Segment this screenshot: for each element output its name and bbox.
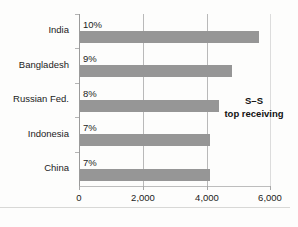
chart-annotation: S–S top receiving	[214, 95, 294, 120]
bar-indonesia[interactable]	[80, 134, 210, 146]
bar-china[interactable]	[80, 169, 210, 181]
category-tick-4	[75, 152, 79, 153]
bar-bangladesh[interactable]	[80, 65, 232, 77]
annotation-line-1: S–S	[214, 95, 294, 108]
annotation-line-2: top receiving	[214, 108, 294, 121]
data-label-indonesia: 7%	[83, 122, 97, 133]
category-label-china: China	[44, 162, 69, 173]
xtick-mark-4000	[207, 186, 208, 190]
data-label-bangladesh: 9%	[83, 53, 97, 64]
page-edge-artifact	[0, 207, 290, 208]
category-label-indonesia: Indonesia	[28, 128, 69, 139]
bar-russian-fed[interactable]	[80, 100, 219, 112]
xtick-mark-0	[79, 186, 80, 190]
category-tick-3	[75, 117, 79, 118]
category-tick-2	[75, 83, 79, 84]
category-tick-0	[75, 14, 79, 15]
bar-chart: India Bangladesh Russian Fed. Indonesia …	[0, 0, 298, 227]
xtick-label-2000: 2,000	[131, 192, 155, 203]
data-label-china: 7%	[83, 157, 97, 168]
xtick-label-0: 0	[76, 192, 81, 203]
x-axis-baseline	[79, 186, 271, 187]
data-label-india: 10%	[83, 19, 102, 30]
xtick-label-6000: 6,000	[258, 192, 282, 203]
category-label-bangladesh: Bangladesh	[19, 59, 69, 70]
xtick-label-4000: 4,000	[195, 192, 219, 203]
category-label-russian-fed: Russian Fed.	[13, 93, 69, 104]
bar-india[interactable]	[80, 31, 259, 43]
xtick-mark-2000	[143, 186, 144, 190]
data-label-russian-fed: 8%	[83, 88, 97, 99]
xtick-mark-6000	[270, 186, 271, 190]
category-tick-1	[75, 48, 79, 49]
category-label-india: India	[48, 24, 69, 35]
